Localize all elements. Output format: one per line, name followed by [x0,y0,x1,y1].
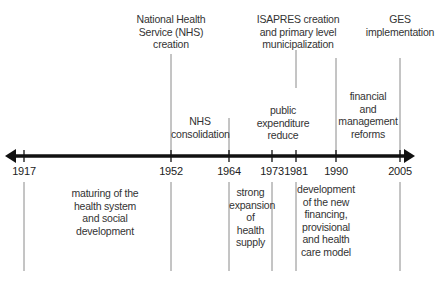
event-ges-implementation: GES implementation [362,13,438,38]
period-new-model-development: development of the new financing, provis… [296,183,356,258]
year-label-1990: 1990 [324,165,348,177]
left-arrow-icon [5,149,16,163]
timeline-diagram: 1917 1952 1964 1973 1981 1990 2005 Natio… [0,0,441,285]
year-label-1917: 1917 [12,165,36,177]
event-isapres-creation: ISAPRES creation and primary level munic… [248,13,348,51]
event-nhs-consolidation: NHS consolidation [171,115,229,140]
year-label-2005: 2005 [388,165,412,177]
event-public-expenditure-reduce: public expenditure reduce [250,104,316,142]
year-label-1952: 1952 [159,165,183,177]
right-arrow-icon [404,149,415,163]
timeline-graphics [0,0,441,285]
period-maturing-health-system: maturing of the health system and social… [55,187,155,237]
year-label-1973: 1973 [260,165,284,177]
event-financial-management-reforms: financial and management reforms [336,90,400,140]
period-strong-expansion: strong expansion of health supply [229,186,272,249]
year-label-1964: 1964 [217,165,241,177]
event-nhs-creation: National Health Service (NHS) creation [126,13,216,51]
year-label-1981: 1981 [284,165,308,177]
